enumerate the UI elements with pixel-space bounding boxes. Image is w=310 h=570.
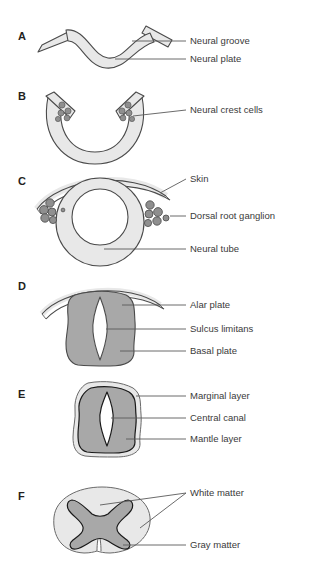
panel-letter-d: D: [18, 280, 26, 292]
label-central-canal: Central canal: [190, 412, 246, 423]
label-marginal-layer: Marginal layer: [190, 390, 250, 401]
label-skin: Skin: [190, 173, 208, 184]
panel-letter-c: C: [18, 175, 26, 187]
label-basal-plate: Basal plate: [190, 345, 237, 356]
label-white-matter: White matter: [190, 487, 244, 498]
label-neural-plate: Neural plate: [190, 53, 241, 64]
neural-tube-lumen: [72, 189, 128, 245]
figure-background: [0, 0, 310, 570]
label-gray-matter: Gray matter: [190, 539, 240, 550]
label-neural-crest-cells: Neural crest cells: [190, 104, 263, 115]
label-mantle-layer: Mantle layer: [190, 433, 242, 444]
panel-letter-a: A: [18, 30, 26, 42]
panel-letter-e: E: [18, 388, 25, 400]
panel-letter-b: B: [18, 90, 26, 102]
label-neural-tube: Neural tube: [190, 243, 239, 254]
label-sulcus-limitans: Sulcus limitans: [190, 323, 254, 334]
neurulation-figure: A Neural groove Neural plate B: [0, 0, 310, 570]
label-dorsal-root-ganglion: Dorsal root ganglion: [190, 210, 275, 221]
label-alar-plate: Alar plate: [190, 299, 230, 310]
label-neural-groove: Neural groove: [190, 35, 250, 46]
panel-letter-f: F: [18, 490, 25, 502]
